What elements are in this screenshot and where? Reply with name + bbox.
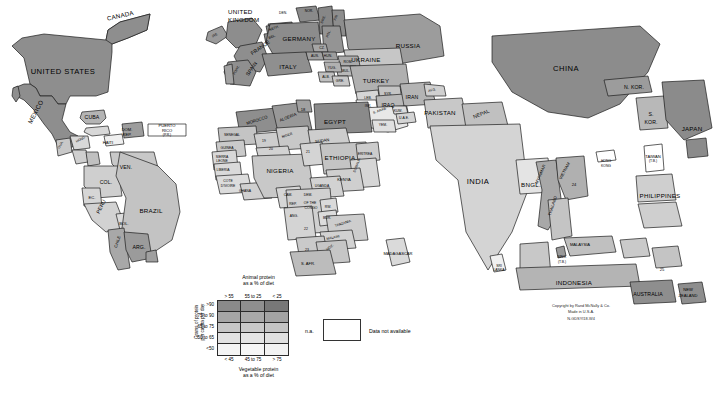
country-label-bol: BOL. bbox=[119, 222, 128, 226]
country-label-new: NEW bbox=[683, 288, 693, 292]
country-label-yug: YUG. bbox=[328, 67, 336, 70]
copyright-line-3: N-GDSYI18-W4 bbox=[525, 316, 637, 322]
legend-swatch-r0-c0 bbox=[218, 301, 241, 312]
country-label-kuw: KUW. bbox=[394, 110, 403, 113]
country-label-t-b: (T.B.) bbox=[649, 160, 657, 163]
country-label-philippines: PHILIPPINES bbox=[640, 193, 681, 199]
country-label-ukraine: UKRAINE bbox=[351, 57, 380, 63]
country-label-malaysia: MALAYSIA bbox=[570, 243, 590, 247]
country-label-ghana: GHANA bbox=[239, 190, 251, 193]
country-label-s-afr: S. AFR. bbox=[301, 262, 315, 266]
country-label-arg: ARG. bbox=[132, 245, 145, 250]
country-label-u-a-e: U.A.E. bbox=[399, 117, 409, 120]
na-swatch bbox=[323, 319, 361, 341]
legend-column-label-0: > 55 bbox=[217, 294, 241, 299]
country-label-india: INDIA bbox=[467, 178, 490, 186]
country-label-united: UNITED bbox=[228, 9, 253, 15]
legend-swatch-r2-c0 bbox=[218, 323, 241, 334]
country-label-rep: REP. bbox=[289, 203, 296, 206]
legend-swatch-r0-c2 bbox=[265, 301, 288, 312]
bivariate-legend: Animal protein as a % of diet > 55 55 to… bbox=[195, 274, 310, 384]
country-label-australia: AUSTRALIA bbox=[633, 292, 663, 297]
country-label-21: 21 bbox=[306, 151, 310, 154]
legend-swatch-grid bbox=[217, 300, 289, 356]
world-map-cartogram: CANADAUNITED STATESMEXICOCUBAHAITIDOM.RE… bbox=[0, 0, 717, 396]
country-label-kingdom: KINGDOM bbox=[228, 17, 259, 23]
country-label-18: 18 bbox=[301, 108, 306, 112]
country-label-ethiopia: ETHIOPIA bbox=[325, 155, 356, 161]
legend-column-label-1: 55 to 25 bbox=[241, 294, 265, 299]
legend-top-title-line2: as a % of diet bbox=[201, 280, 316, 286]
country-label-23: 23 bbox=[305, 249, 309, 252]
country-label-kong: KONG bbox=[601, 165, 611, 168]
country-label-cz: CZ. bbox=[319, 47, 324, 50]
legend-column-label-2: < 25 bbox=[265, 294, 289, 299]
legend-swatch-r2-c1 bbox=[241, 323, 264, 334]
country-label-bul: BUL. bbox=[342, 70, 350, 73]
country-label-s: S. bbox=[648, 112, 653, 117]
country-label-nigeria: NIGERIA bbox=[266, 168, 293, 174]
country-label-ang: ANG. bbox=[290, 215, 298, 218]
country-label-t-b: (T.B.) bbox=[558, 261, 566, 264]
country-label-leb: LEB. bbox=[364, 97, 371, 100]
country-label-rep: REP. bbox=[122, 133, 131, 137]
country-label-brazil: BRAZIL bbox=[139, 208, 162, 214]
na-code-label: n.a. bbox=[305, 328, 314, 334]
copyright-block: Copyright by Rand McNally & Co. Made in … bbox=[525, 303, 637, 322]
country-label-alb: ALB. bbox=[322, 76, 329, 79]
legend-bottom-title-line2: as a % of diet bbox=[201, 372, 316, 378]
country-label-zealand: ZEALAND bbox=[679, 294, 698, 298]
country-label-rom: ROM. bbox=[344, 61, 353, 64]
legend-swatch-r3-c1 bbox=[241, 333, 264, 344]
legend-vaxis-line2: per capita per day bbox=[200, 286, 206, 358]
legend-bottom-column-label-2: > 75 bbox=[265, 357, 289, 362]
country-label-russia: RUSSIA bbox=[396, 43, 421, 49]
country-label-madagascar: MADAGASCAR bbox=[383, 252, 412, 256]
legend-swatch-r4-c2 bbox=[265, 344, 288, 355]
legend-swatch-r1-c2 bbox=[265, 312, 288, 323]
country-label-senegal: SENEGAL bbox=[224, 134, 240, 137]
country-label-cote: COTE bbox=[223, 180, 232, 183]
country-label-of-the: OF THE bbox=[304, 202, 316, 205]
country-label-liberia: LIBERIA bbox=[216, 169, 229, 172]
country-label-bur: BUR. bbox=[323, 217, 331, 220]
country-label-turkey: TURKEY bbox=[363, 78, 390, 84]
country-label-china: CHINA bbox=[553, 65, 579, 73]
copyright-line-2: Made in U.S.A. bbox=[525, 309, 637, 315]
country-label-italy: ITALY bbox=[279, 64, 297, 70]
country-label-united-states: UNITED STATES bbox=[31, 68, 96, 76]
legend-swatch-r3-c0 bbox=[218, 333, 241, 344]
country-label-hong: HONG bbox=[601, 160, 611, 163]
country-label-dem: DEM. bbox=[304, 194, 312, 197]
country-label-gre: GRE. bbox=[336, 80, 344, 83]
country-label-kor: KOR. bbox=[644, 120, 657, 125]
legend-bottom-column-label-1: 45 to 75 bbox=[241, 357, 265, 362]
country-label-nor: NOR. bbox=[305, 10, 313, 13]
legend-swatch-r2-c2 bbox=[265, 323, 288, 334]
country-label-20: 20 bbox=[269, 148, 273, 151]
country-label-hun: HUN. bbox=[324, 55, 332, 58]
country-label-leone: LEONE bbox=[216, 160, 228, 163]
country-label-haiti: HAITI bbox=[103, 141, 113, 145]
legend-swatch-r1-c0 bbox=[218, 312, 241, 323]
legend-swatch-r4-c0 bbox=[218, 344, 241, 355]
country-label-aus: AUS. bbox=[311, 55, 319, 58]
country-label-indonesia: INDONESIA bbox=[556, 280, 592, 286]
legend-vertical-axis-label: Grams of protein per capita per day bbox=[194, 286, 205, 358]
country-label-cam: CAM. bbox=[284, 194, 292, 197]
country-label-japan: JAPAN bbox=[682, 126, 703, 132]
legend-swatch-r0-c1 bbox=[241, 301, 264, 312]
country-label-isr: ISR. bbox=[365, 105, 372, 108]
country-label-n-kor: N. KOR. bbox=[624, 85, 644, 90]
country-label-sing: SING. bbox=[557, 256, 566, 259]
country-label-22: 22 bbox=[304, 228, 308, 231]
na-description-label: Data not available bbox=[369, 328, 411, 334]
country-label-lanka: LANKA bbox=[493, 269, 504, 272]
country-label-uganda: UGANDA bbox=[315, 185, 330, 188]
country-label-eritrea: ERITREA bbox=[358, 153, 373, 156]
country-label-p-r: (P.R.) bbox=[163, 134, 171, 137]
country-label-syr: SYR. bbox=[384, 93, 392, 96]
country-label-19: 19 bbox=[262, 140, 266, 143]
country-label-ven: VEN. bbox=[120, 165, 133, 170]
country-label-iran: IRAN bbox=[406, 95, 419, 100]
